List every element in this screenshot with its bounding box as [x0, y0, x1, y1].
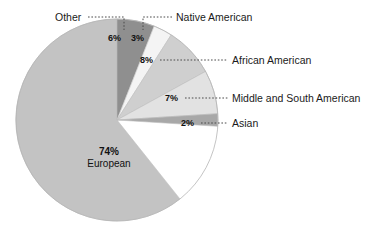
slice-label-asian: Asian [232, 117, 258, 129]
slice-percent-asian: 2% [181, 118, 194, 128]
slice-percent-european: 74% [69, 146, 149, 158]
slice-percent-african-american: 8% [140, 55, 153, 65]
slice-percent-middle-south-american: 7% [165, 93, 178, 103]
slice-name-european: European [69, 158, 149, 170]
slice-label-european: 74% European [69, 146, 149, 169]
pie-chart-figure: 6% 3% 8% 7% 2% Other Native American Afr… [0, 0, 375, 231]
slice-label-other: Other [55, 11, 81, 23]
slice-label-middle-south-american: Middle and South American [232, 92, 360, 104]
slice-percent-other: 6% [108, 33, 121, 43]
slice-percent-native-american: 3% [131, 33, 144, 43]
slice-label-native-american: Native American [176, 11, 252, 23]
slice-label-african-american: African American [232, 54, 311, 66]
pie-graphic [0, 0, 375, 231]
